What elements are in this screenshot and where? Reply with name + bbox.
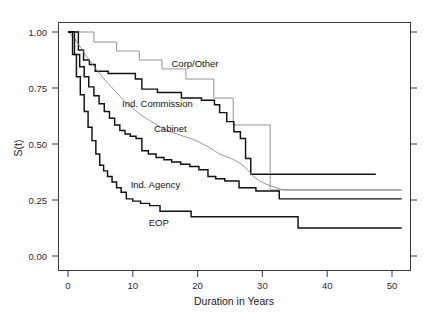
curve-label-ind-agency: Ind. Agency bbox=[131, 179, 181, 190]
chart-background bbox=[0, 0, 434, 321]
survival-chart-figure: 1.00 0.75 0.50 0.25 0.00 S(t) 0 10 20 30… bbox=[0, 0, 434, 321]
y-tick-label-4: 0.25 bbox=[29, 195, 48, 206]
x-tick-label-1: 0 bbox=[65, 280, 70, 291]
x-tick-label-4: 30 bbox=[257, 280, 268, 291]
x-tick-label-3: 20 bbox=[192, 280, 203, 291]
x-axis-title: Duration in Years bbox=[194, 295, 274, 307]
x-tick-label-6: 50 bbox=[387, 280, 398, 291]
curve-label-corp-other: Corp/Other bbox=[172, 58, 219, 69]
y-tick-label-3: 0.50 bbox=[29, 139, 48, 150]
curve-label-eop: EOP bbox=[149, 217, 169, 228]
y-axis-title: S(t) bbox=[12, 140, 24, 157]
y-tick-label-1: 1.00 bbox=[29, 27, 48, 38]
x-tick-label-5: 40 bbox=[322, 280, 333, 291]
y-tick-label-5: 0.00 bbox=[29, 251, 48, 262]
curve-label-ind-commission: Ind. Commission bbox=[122, 98, 193, 109]
x-tick-label-2: 10 bbox=[128, 280, 139, 291]
curve-label-cabinet: Cabinet bbox=[154, 123, 187, 134]
chart-canvas: 1.00 0.75 0.50 0.25 0.00 S(t) 0 10 20 30… bbox=[0, 0, 434, 321]
y-tick-label-2: 0.75 bbox=[29, 83, 48, 94]
